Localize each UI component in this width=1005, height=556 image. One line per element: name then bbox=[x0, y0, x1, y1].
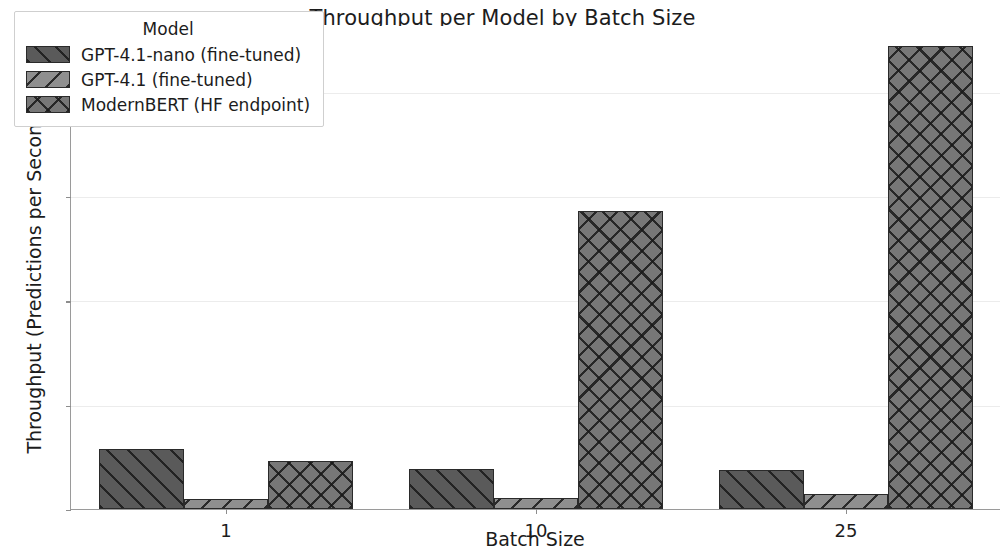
y-tick-mark bbox=[66, 406, 71, 407]
bar bbox=[804, 494, 889, 509]
legend-item[interactable]: GPT-4.1 (fine-tuned) bbox=[26, 67, 310, 92]
legend-swatch-icon bbox=[26, 96, 70, 113]
gridline bbox=[71, 406, 1000, 407]
legend-swatch-icon bbox=[26, 46, 70, 63]
x-tick-label: 1 bbox=[166, 520, 286, 541]
gridline bbox=[71, 197, 1000, 198]
y-tick-mark bbox=[66, 301, 71, 302]
bar bbox=[719, 470, 804, 509]
legend-item-label: GPT-4.1-nano (fine-tuned) bbox=[81, 45, 301, 65]
legend-title: Model bbox=[26, 19, 310, 39]
x-tick-mark bbox=[846, 509, 847, 514]
x-tick-label: 25 bbox=[786, 520, 906, 541]
bar bbox=[268, 461, 353, 509]
bar bbox=[494, 498, 579, 509]
legend-item-label: ModernBERT (HF endpoint) bbox=[81, 95, 310, 115]
chart-figure: Throughput per Model by Batch Size Throu… bbox=[0, 0, 1005, 556]
legend-item[interactable]: GPT-4.1-nano (fine-tuned) bbox=[26, 42, 310, 67]
legend-item[interactable]: ModernBERT (HF endpoint) bbox=[26, 92, 310, 117]
legend-entries: GPT-4.1-nano (fine-tuned)GPT-4.1 (fine-t… bbox=[26, 42, 310, 117]
x-tick-mark bbox=[536, 509, 537, 514]
gridline bbox=[71, 301, 1000, 302]
bar bbox=[578, 211, 663, 509]
bar bbox=[99, 449, 184, 510]
x-tick-label: 10 bbox=[476, 520, 596, 541]
legend: Model GPT-4.1-nano (fine-tuned)GPT-4.1 (… bbox=[14, 11, 324, 127]
y-tick-mark bbox=[66, 197, 71, 198]
bar bbox=[888, 46, 973, 509]
x-tick-mark bbox=[226, 509, 227, 514]
legend-item-label: GPT-4.1 (fine-tuned) bbox=[81, 70, 253, 90]
y-tick-mark bbox=[66, 510, 71, 511]
legend-swatch-icon bbox=[26, 71, 70, 88]
bar bbox=[184, 499, 269, 509]
bar bbox=[409, 469, 494, 509]
